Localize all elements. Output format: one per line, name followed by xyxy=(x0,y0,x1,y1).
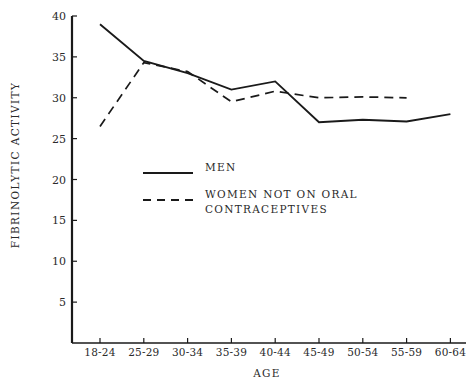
legend-item-women: WOMEN NOT ON ORAL CONTRACEPTIVES xyxy=(143,187,393,217)
legend-swatch-solid-line xyxy=(143,164,193,176)
series-line-women xyxy=(100,63,407,127)
legend-item-men: MEN xyxy=(143,160,393,175)
x-axis-tick-label: 40-44 xyxy=(260,346,291,358)
series-line-men xyxy=(100,24,450,122)
x-axis-tick-label: 60-64 xyxy=(435,346,466,358)
x-axis-tick-label: 25-29 xyxy=(128,346,159,358)
x-axis-tick-label: 45-49 xyxy=(303,346,334,358)
x-axis-tick-label: 18-24 xyxy=(84,346,115,358)
fibrinolytic-activity-line-chart: FIBRINOLYTIC ACTIVITY 510152025303540 18… xyxy=(0,0,474,389)
legend-swatch-dashed-line xyxy=(143,191,193,203)
chart-legend: MEN WOMEN NOT ON ORAL CONTRACEPTIVES xyxy=(143,160,393,229)
legend-label-women: WOMEN NOT ON ORAL CONTRACEPTIVES xyxy=(205,187,358,217)
x-axis-tick-label: 35-39 xyxy=(216,346,247,358)
x-axis-tick-label: 30-34 xyxy=(172,346,203,358)
x-axis-tick-labels: 18-2425-2930-3435-3940-4445-4950-5455-59… xyxy=(0,346,474,366)
x-axis-tick-label: 55-59 xyxy=(391,346,422,358)
legend-label-men: MEN xyxy=(205,160,237,175)
x-axis-tick-label: 50-54 xyxy=(347,346,378,358)
x-axis-title: AGE xyxy=(72,367,462,379)
